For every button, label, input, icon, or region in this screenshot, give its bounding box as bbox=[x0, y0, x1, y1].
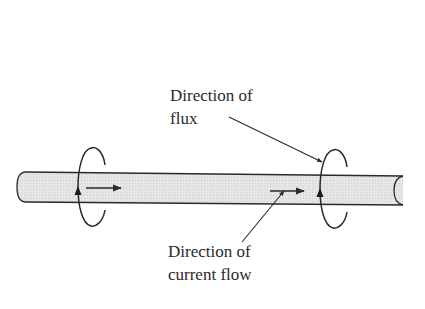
current-label-line1: Direction of bbox=[168, 240, 252, 263]
current-label-line2: current flow bbox=[168, 263, 252, 286]
conductor-rod bbox=[17, 172, 403, 205]
flux-label: Direction of flux bbox=[170, 84, 253, 130]
current-label: Direction of current flow bbox=[168, 240, 252, 286]
flux-label-line1: Direction of bbox=[170, 84, 253, 107]
diagram-canvas: Direction of flux Direction of current f… bbox=[0, 0, 425, 309]
flux-label-line2: flux bbox=[170, 107, 253, 130]
